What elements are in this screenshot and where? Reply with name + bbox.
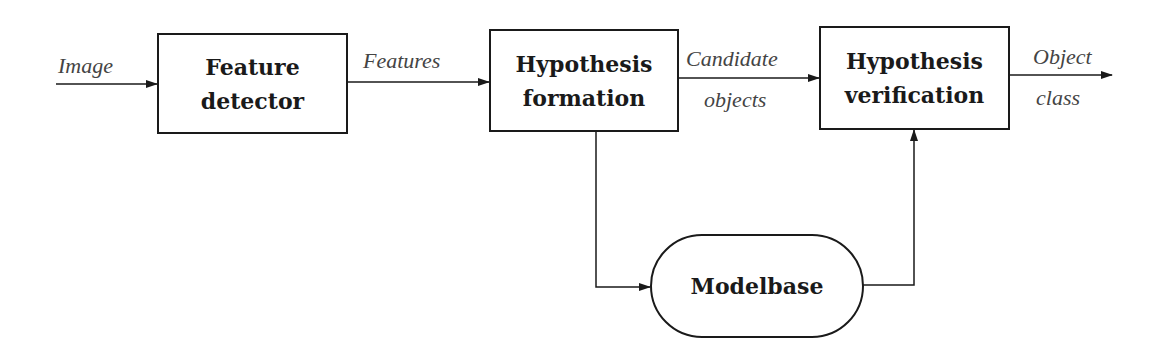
hypothesis-verification-line2: verification [845,78,985,112]
edge-label-features: Features [363,50,440,72]
edge-label-image: Image [58,55,113,77]
diagram-canvas: Feature detector Hypothesis formation Hy… [0,0,1164,357]
hypothesis-verification-block: Hypothesis verification [819,26,1010,130]
hypothesis-verification-line1: Hypothesis [846,44,983,78]
edge-label-objects: objects [704,89,766,111]
feature-detector-line2: detector [201,84,304,118]
edge-label-object: Object [1033,46,1092,68]
arrow-formation-to-modelbase [596,131,650,287]
edge-label-candidate: Candidate [686,48,778,70]
modelbase-block: Modelbase [650,234,864,338]
feature-detector-block: Feature detector [157,33,348,134]
hypothesis-formation-line1: Hypothesis [516,47,653,81]
edge-label-class: class [1036,87,1080,109]
modelbase-label: Modelbase [691,273,824,299]
hypothesis-formation-line2: formation [523,81,645,115]
arrow-modelbase-to-verification [863,130,914,285]
hypothesis-formation-block: Hypothesis formation [489,29,679,132]
feature-detector-line1: Feature [205,50,299,84]
